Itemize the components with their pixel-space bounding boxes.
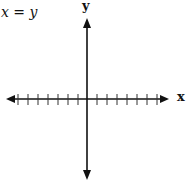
x-axis-right-arrow-icon	[160, 95, 169, 103]
coordinate-axes	[0, 0, 191, 181]
y-axis-down-arrow-icon	[83, 170, 91, 180]
x-axis-left-arrow-icon	[6, 95, 15, 103]
y-axis-up-arrow-icon	[83, 18, 91, 28]
